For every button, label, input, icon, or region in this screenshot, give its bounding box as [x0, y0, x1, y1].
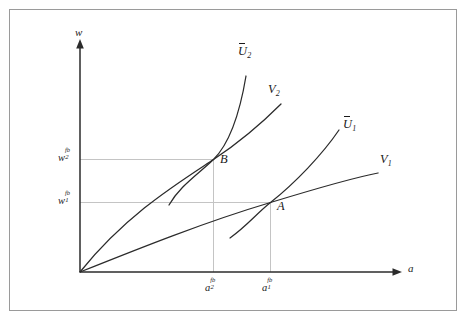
curve-label-V1: V1	[380, 152, 392, 167]
y-axis-arrow-icon	[76, 39, 84, 49]
y-tick-label-w2fb: wfb2	[58, 150, 72, 163]
y-tick-label-w1fb: wfb1	[58, 193, 72, 206]
x-tick-label-a2fb: afb2	[205, 280, 217, 293]
point-label-A: A	[277, 199, 285, 214]
x-axis-arrow-icon	[393, 268, 403, 276]
curve-U2	[169, 76, 246, 205]
curve-label-U1: U1	[343, 117, 356, 132]
curve-V1	[80, 173, 378, 272]
curve-U1	[230, 130, 339, 238]
curve-label-V2: V2	[268, 82, 280, 97]
x-tick-label-a1fb: afb1	[262, 280, 274, 293]
x-axis-label: a	[408, 262, 414, 274]
curve-V2	[80, 104, 281, 272]
y-axis-label: w	[75, 26, 82, 38]
curve-label-U2: U2	[238, 44, 251, 59]
point-label-B: B	[220, 152, 228, 167]
